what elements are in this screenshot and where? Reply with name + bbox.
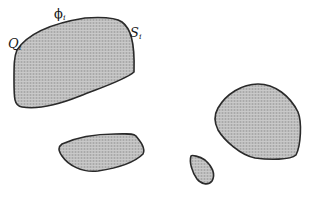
label-q-i: Qi [8, 37, 21, 52]
label-s-i: Si [130, 26, 141, 41]
bottom-middle-region [59, 134, 144, 171]
small-teardrop-region [190, 156, 213, 184]
large-region [14, 17, 134, 107]
diagram-canvas [0, 0, 316, 198]
label-phi-i: ϕi [54, 7, 65, 22]
right-region [215, 84, 300, 159]
